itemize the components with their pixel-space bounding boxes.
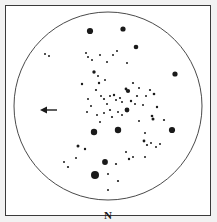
star-marker: [91, 129, 97, 135]
star-marker: [90, 105, 92, 107]
star-marker: [145, 95, 147, 97]
star-marker: [81, 83, 83, 85]
star-marker: [103, 98, 105, 100]
star-marker: [95, 89, 97, 91]
star-marker: [128, 158, 130, 160]
star-marker: [142, 104, 144, 106]
star-marker: [113, 94, 115, 96]
star-marker: [117, 111, 119, 113]
star-marker: [63, 161, 65, 163]
star-marker: [138, 87, 140, 89]
star-marker: [111, 116, 113, 118]
star-marker: [109, 109, 111, 111]
star-marker: [112, 54, 114, 56]
star-marker: [126, 62, 128, 64]
star-marker: [156, 106, 158, 108]
star-marker: [75, 157, 77, 159]
star-marker: [87, 56, 89, 58]
star-marker: [150, 142, 152, 144]
star-marker: [107, 173, 109, 175]
star-marker: [99, 54, 101, 56]
star-marker: [121, 114, 123, 116]
star-marker: [115, 127, 121, 133]
star-marker: [85, 52, 87, 54]
star-marker: [130, 100, 132, 102]
star-marker: [117, 180, 119, 182]
star-marker: [97, 75, 99, 77]
star-marker: [84, 148, 86, 150]
star-marker: [115, 163, 117, 165]
star-marker: [77, 145, 80, 148]
star-marker: [153, 93, 156, 96]
star-marker: [116, 50, 118, 52]
star-marker: [87, 28, 93, 34]
star-marker: [138, 120, 140, 122]
star-marker: [102, 159, 108, 165]
star-marker: [143, 140, 146, 143]
star-marker: [92, 70, 95, 73]
star-marker: [103, 112, 105, 114]
star-marker: [67, 166, 69, 168]
star-marker: [132, 82, 134, 84]
star-marker: [119, 97, 121, 99]
direction-arrow-icon: [40, 107, 57, 114]
star-marker: [106, 103, 108, 105]
star-marker: [136, 95, 138, 97]
star-marker: [100, 95, 102, 97]
star-marker: [91, 171, 99, 179]
star-marker: [104, 79, 106, 81]
star-marker: [152, 118, 155, 121]
star-marker: [115, 99, 117, 101]
star-marker: [159, 143, 161, 145]
star-marker: [163, 119, 165, 121]
star-marker: [155, 146, 157, 148]
star-marker: [86, 111, 88, 113]
star-marker: [87, 98, 89, 100]
star-marker: [132, 156, 134, 158]
star-marker: [149, 89, 151, 91]
star-finder-chart: N: [0, 0, 217, 222]
star-marker: [144, 156, 146, 158]
star-group: [44, 26, 178, 191]
star-marker: [125, 151, 127, 153]
star-marker: [107, 189, 109, 191]
star-marker: [134, 103, 136, 105]
star-marker: [120, 26, 125, 31]
star-marker: [99, 121, 101, 123]
chart-svg-layer: [0, 0, 217, 222]
star-marker: [121, 101, 123, 103]
star-marker: [151, 115, 154, 118]
star-marker: [106, 61, 108, 63]
star-marker: [91, 59, 93, 61]
star-marker: [134, 45, 139, 50]
star-marker: [48, 55, 50, 57]
arrow-head: [40, 107, 47, 114]
star-marker: [172, 71, 177, 76]
star-marker: [44, 53, 46, 55]
star-marker: [109, 95, 111, 97]
star-marker: [169, 127, 175, 133]
star-marker: [96, 114, 98, 116]
star-marker: [125, 108, 130, 113]
field-of-view-circle: [14, 12, 202, 200]
star-marker: [98, 82, 100, 84]
star-marker: [125, 88, 128, 91]
star-marker: [144, 132, 146, 134]
star-marker: [146, 144, 148, 146]
north-direction-label: N: [98, 210, 118, 221]
